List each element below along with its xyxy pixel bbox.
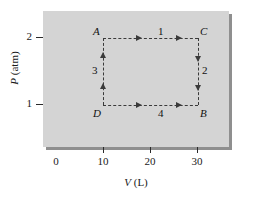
process-1-segment bbox=[103, 38, 198, 39]
process-2-segment bbox=[198, 38, 199, 105]
process-label-3: 3 bbox=[92, 64, 98, 76]
process-4-arrow-mid-left bbox=[136, 102, 142, 108]
x-tick-mark-10 bbox=[103, 147, 104, 153]
y-axis-title-symbol: P bbox=[8, 78, 20, 85]
process-label-4: 4 bbox=[158, 107, 164, 119]
x-tick-label-20: 20 bbox=[139, 155, 161, 167]
point-label-C: C bbox=[200, 25, 207, 37]
process-4-arrow-mid-right bbox=[176, 102, 182, 108]
point-label-B: B bbox=[200, 107, 207, 119]
x-tick-label-0: 0 bbox=[45, 155, 67, 167]
process-label-1: 1 bbox=[158, 25, 164, 37]
x-tick-mark-30 bbox=[197, 147, 198, 153]
process-3-arrow-upper bbox=[100, 52, 106, 58]
y-axis-title: P (atm) bbox=[8, 33, 20, 103]
x-tick-mark-20 bbox=[150, 147, 151, 153]
x-axis-title: V (L) bbox=[43, 176, 229, 188]
y-tick-label-2: 2 bbox=[18, 30, 32, 42]
y-axis-title-unit: (atm) bbox=[8, 51, 20, 78]
process-label-2: 2 bbox=[202, 64, 208, 76]
y-tick-label-1: 1 bbox=[18, 97, 32, 109]
x-tick-label-30: 30 bbox=[186, 155, 208, 167]
y-tick-mark-1 bbox=[36, 104, 43, 105]
process-1-arrow-mid-right bbox=[176, 35, 182, 41]
process-2-arrow-lower bbox=[195, 85, 201, 91]
point-label-D: D bbox=[93, 107, 101, 119]
x-tick-label-10: 10 bbox=[92, 155, 114, 167]
x-axis-title-unit: (L) bbox=[131, 176, 148, 188]
process-3-segment bbox=[103, 38, 104, 105]
process-3-arrow-lower bbox=[100, 83, 106, 89]
process-4-segment bbox=[103, 105, 198, 106]
y-tick-mark-2 bbox=[36, 37, 43, 38]
point-label-A: A bbox=[93, 25, 100, 37]
process-2-arrow-upper bbox=[195, 56, 201, 62]
x-axis-title-symbol: V bbox=[124, 176, 131, 188]
process-1-arrow-mid-left bbox=[136, 35, 142, 41]
pv-diagram-figure: 2 1 P (atm) 0 10 20 30 V (L) A C D B 1 2… bbox=[0, 0, 259, 198]
